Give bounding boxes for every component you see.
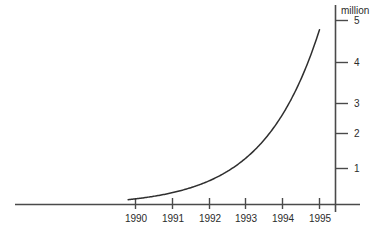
exponential-growth-curve [128,30,319,200]
chart-canvas: 5 4 3 2 1 million 1990 1991 1992 1993 19… [0,0,387,238]
x-tick-label-1992: 1992 [199,213,222,224]
y-tick-label-4: 4 [354,57,360,68]
y-tick-label-2: 2 [354,128,360,139]
y-tick-label-1: 1 [354,163,360,174]
y-tick-label-3: 3 [354,98,360,109]
x-tick-label-1993: 1993 [235,213,258,224]
x-tick-label-1990: 1990 [125,213,148,224]
y-tick-label-5: 5 [354,15,360,26]
x-tick-label-1991: 1991 [162,213,185,224]
x-tick-label-1995: 1995 [309,213,332,224]
x-tick-label-1994: 1994 [272,213,295,224]
chart-container: 5 4 3 2 1 million 1990 1991 1992 1993 19… [0,0,387,238]
y-axis-unit-label: million [341,5,369,16]
